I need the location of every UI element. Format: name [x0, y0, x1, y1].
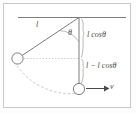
- velocity-arrow: [86, 86, 110, 92]
- bob-lowest: [73, 83, 84, 94]
- brace-l-cos-theta: [82, 19, 85, 58]
- pendulum-diagram-canvas: [0, 0, 136, 113]
- angle-theta-label: θ: [68, 29, 72, 37]
- string-length-label: l: [36, 21, 38, 29]
- bob-displaced: [12, 53, 23, 64]
- l-cos-theta-label: l cosθ: [87, 31, 106, 39]
- pendulum-figure: l θ l cosθ l − l cosθ v: [0, 0, 136, 113]
- l-minus-l-cos-theta-label: l − l cosθ: [86, 62, 116, 70]
- velocity-label: v: [110, 83, 114, 91]
- brace-l-minus-l-cos-theta: [82, 59, 85, 83]
- swing-arc: [15, 62, 77, 94]
